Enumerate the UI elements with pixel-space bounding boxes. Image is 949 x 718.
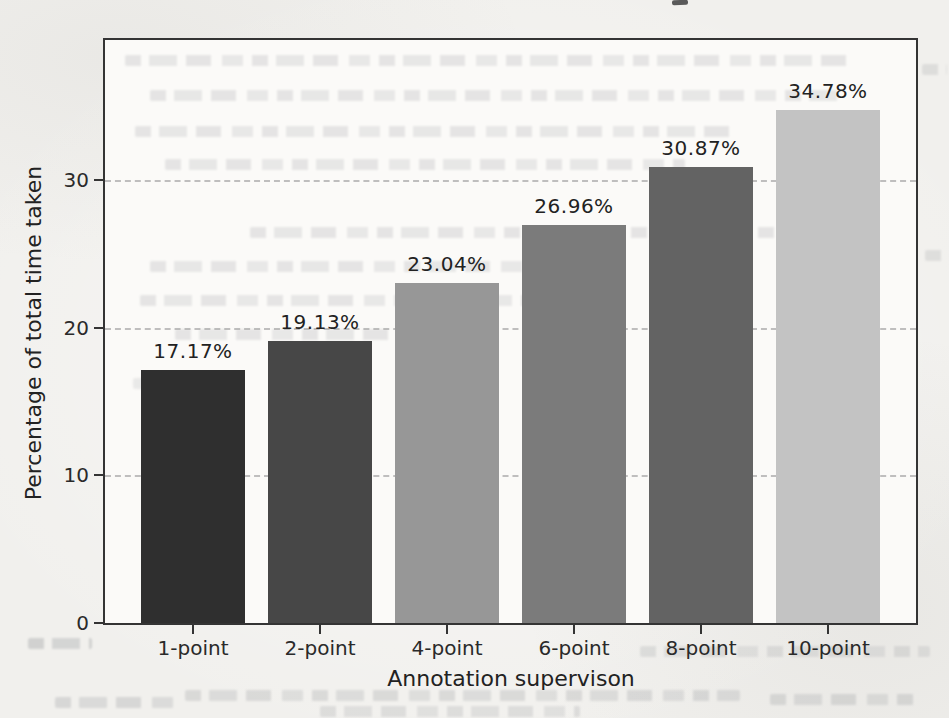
y-tick-label: 20 [64,316,89,340]
y-tick-mark [94,474,103,476]
bleed-through-text [770,694,920,705]
y-tick-label: 10 [64,463,89,487]
bar-4-point [395,283,499,623]
bar-2-point [268,341,372,623]
x-tick-label: 8-point [666,636,737,660]
bar-value-label: 17.17% [113,339,273,363]
bleed-through-text [55,697,175,708]
bar-1-point [141,370,245,623]
cropped-text-fragment [672,0,688,5]
bleed-through-text [922,64,947,75]
x-tick-mark [827,625,829,634]
bleed-through-text [150,90,840,101]
y-tick-mark [94,179,103,181]
x-tick-mark [573,625,575,634]
y-tick-mark [94,622,103,624]
bleed-through-text [320,706,580,717]
x-tick-label: 10-point [786,636,870,660]
x-tick-mark [700,625,702,634]
x-tick-mark [192,625,194,634]
bleed-through-text [925,250,947,261]
y-tick-label: 0 [76,611,89,635]
bleed-through-text [125,55,855,66]
bar-value-label: 23.04% [367,252,527,276]
bleed-through-text [185,690,740,701]
bar-value-label: 26.96% [494,194,654,218]
bleed-through-text [28,638,92,649]
y-tick-label: 30 [64,168,89,192]
y-tick-mark [94,327,103,329]
bar-value-label: 19.13% [240,310,400,334]
bar-10-point [776,110,880,623]
x-tick-mark [446,625,448,634]
bar-value-label: 34.78% [748,79,908,103]
bleed-through-text [165,159,685,170]
x-tick-mark [319,625,321,634]
scanned-page: 010203017.17%1-point19.13%2-point23.04%4… [0,0,949,718]
x-tick-label: 2-point [285,636,356,660]
x-tick-label: 1-point [158,636,229,660]
x-tick-label: 6-point [539,636,610,660]
bar-value-label: 30.87% [621,136,781,160]
x-axis-title: Annotation supervison [387,666,635,691]
x-tick-label: 4-point [412,636,483,660]
bar-8-point [649,167,753,623]
y-axis-title: Percentage of total time taken [21,166,46,501]
plot-area: 010203017.17%1-point19.13%2-point23.04%4… [103,38,918,625]
bar-6-point [522,225,626,623]
